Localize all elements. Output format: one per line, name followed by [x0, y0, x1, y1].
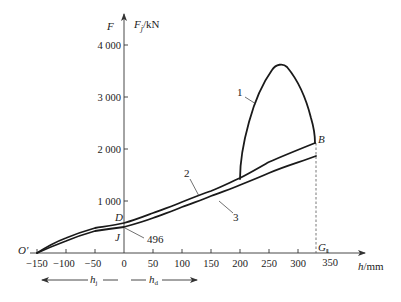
- value-496-label: 496: [125, 228, 164, 245]
- point-g-label: G1: [318, 241, 330, 255]
- point-b-label: B: [318, 133, 325, 145]
- hd-range: hd: [131, 273, 197, 287]
- hj-range: hj: [42, 273, 118, 287]
- x-tick-label: 100: [174, 258, 190, 269]
- svg-text:1: 1: [237, 86, 243, 98]
- chart: −150 −100 −50 0 50 100 150 200 250 300 3…: [0, 0, 401, 302]
- y-tick-label: 3 000: [97, 92, 121, 103]
- point-j-label: J: [115, 231, 121, 243]
- x-tick-label: 0: [121, 258, 126, 269]
- x-tick-label: −150: [26, 258, 48, 269]
- svg-text:hd: hd: [149, 273, 159, 287]
- curve-1-label: 1: [237, 86, 256, 104]
- x-tick-label: 300: [290, 258, 306, 269]
- svg-text:496: 496: [147, 233, 164, 245]
- x-tick-label: −100: [53, 258, 75, 269]
- svg-text:2: 2: [184, 167, 190, 179]
- svg-text:hj: hj: [90, 273, 98, 287]
- curve-1: [240, 65, 315, 179]
- x-tick-label: 50: [148, 258, 159, 269]
- y-tick-label: 1 000: [97, 196, 121, 207]
- y-tick-label: 4 000: [97, 40, 121, 51]
- svg-text:Fj/kN: Fj/kN: [133, 18, 160, 33]
- curve-3-label: 3: [219, 201, 239, 223]
- x-tick-label: 200: [232, 258, 248, 269]
- point-origin-label: O′: [18, 244, 29, 256]
- x-axis-label: h/mm: [358, 260, 384, 272]
- x-tick-labels: −150 −100 −50 0 50 100 150 200 250 300 3…: [26, 257, 338, 269]
- y-axis-label-left: F: [106, 20, 114, 32]
- svg-text:h/mm: h/mm: [358, 260, 384, 272]
- y-tick-label: 2 000: [97, 144, 121, 155]
- y-axis-label-right: Fj/kN: [133, 18, 160, 33]
- svg-text:G1: G1: [318, 241, 330, 255]
- point-d-label: D: [114, 211, 123, 223]
- x-ticks: [37, 249, 327, 253]
- x-tick-label: −50: [85, 258, 101, 269]
- curve-2-label: 2: [184, 167, 199, 196]
- svg-text:3: 3: [233, 211, 239, 223]
- x-tick-label: 150: [203, 258, 219, 269]
- y-ticks: [124, 45, 128, 201]
- x-tick-label: 350: [322, 257, 338, 268]
- x-tick-label: 250: [261, 258, 277, 269]
- y-tick-labels: 1 000 2 000 3 000 4 000: [97, 40, 121, 207]
